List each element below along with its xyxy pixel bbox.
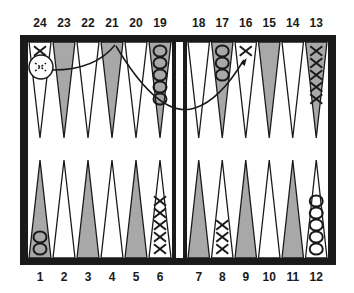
hit-marker-circle (29, 55, 53, 79)
bar (176, 42, 183, 258)
right-half (187, 42, 328, 258)
backgammon-board (0, 0, 354, 293)
